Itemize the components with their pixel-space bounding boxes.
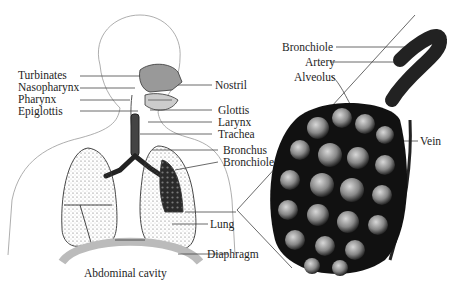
- label-glottis: Glottis: [218, 104, 249, 116]
- label-larynx: Larynx: [218, 116, 251, 128]
- label-pharynx: Pharynx: [18, 93, 56, 105]
- label-bronchiole: Bronchiole: [223, 156, 274, 168]
- label-abdominal-cavity: Abdominal cavity: [84, 267, 167, 279]
- label-turbinates: Turbinates: [18, 69, 67, 81]
- label-trachea: Trachea: [218, 128, 255, 140]
- diaphragm: [62, 242, 200, 262]
- label-lung: Lung: [210, 218, 234, 230]
- respiratory-diagram: Turbinates Nasopharynx Pharynx Epiglotti…: [0, 0, 458, 292]
- label-nostril: Nostril: [215, 79, 247, 91]
- label-epiglottis: Epiglottis: [18, 105, 63, 117]
- label-nasopharynx: Nasopharynx: [18, 81, 79, 93]
- label-diaphragm: Diaphragm: [207, 248, 259, 260]
- human-figure: [8, 15, 235, 255]
- label-vein: Vein: [420, 135, 441, 147]
- nasal-cavity: [139, 64, 182, 110]
- label-artery: Artery: [305, 56, 335, 68]
- label-detail-bronchiole: Bronchiole: [282, 41, 333, 53]
- label-bronchus: Bronchus: [223, 144, 267, 156]
- label-alveolus: Alveolus: [294, 71, 336, 83]
